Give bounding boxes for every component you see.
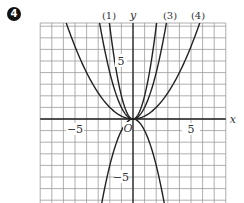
parabola-chart: −555−5Oxy(1)(3)(4) bbox=[0, 0, 244, 203]
curve-label: (1) bbox=[102, 10, 116, 21]
y-tick-label: −5 bbox=[113, 171, 129, 184]
x-axis-label: x bbox=[230, 113, 237, 126]
y-axis-label: y bbox=[129, 9, 137, 22]
y-tick-label: 5 bbox=[118, 55, 125, 68]
x-tick-label: −5 bbox=[67, 123, 83, 136]
curve-label: (4) bbox=[191, 10, 205, 21]
x-tick-label: 5 bbox=[188, 123, 195, 136]
origin-label: O bbox=[123, 122, 132, 135]
curve-label: (3) bbox=[163, 10, 177, 21]
